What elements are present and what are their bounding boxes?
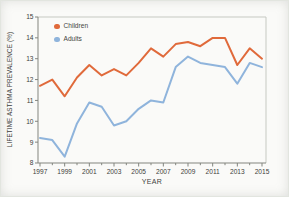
children-series-label: Children xyxy=(64,23,89,30)
y-tick-label: 13 xyxy=(26,55,34,62)
y-tick-label: 15 xyxy=(26,13,34,20)
y-tick-label: 10 xyxy=(26,118,34,125)
x-tick-label: 2007 xyxy=(156,168,171,175)
legend-item-adults: Adults xyxy=(54,33,88,46)
x-tick-label: 1997 xyxy=(33,168,48,175)
legend-item-children: Children xyxy=(54,20,88,33)
x-tick-label: 2013 xyxy=(230,168,245,175)
x-tick-label: 2009 xyxy=(181,168,196,175)
y-tick-label: 14 xyxy=(26,34,34,41)
y-tick-label: 12 xyxy=(26,76,34,83)
y-tick-label: 9 xyxy=(30,139,34,146)
y-tick-label: 8 xyxy=(30,159,34,166)
x-tick-label: 2015 xyxy=(255,168,270,175)
x-tick-label: 1999 xyxy=(57,168,72,175)
adults-series-dot-icon xyxy=(54,37,60,43)
children-series-dot-icon xyxy=(54,24,60,30)
adults-series-label: Adults xyxy=(64,36,82,43)
x-tick-label: 2003 xyxy=(107,168,122,175)
x-tick-label: 2005 xyxy=(131,168,146,175)
y-tick-label: 11 xyxy=(27,97,34,104)
legend: Children Adults xyxy=(54,20,88,46)
adults-line xyxy=(40,57,262,157)
asthma-prevalence-chart: LIFETIME ASTHMA PREVALENCE (%) 891011121… xyxy=(0,0,289,197)
x-axis-title: YEAR xyxy=(38,178,266,185)
children-line xyxy=(40,38,262,96)
x-tick-label: 2011 xyxy=(206,168,221,175)
plot-area: 8910111213141519971999200120032005200720… xyxy=(0,0,289,197)
x-tick-label: 2001 xyxy=(82,168,97,175)
